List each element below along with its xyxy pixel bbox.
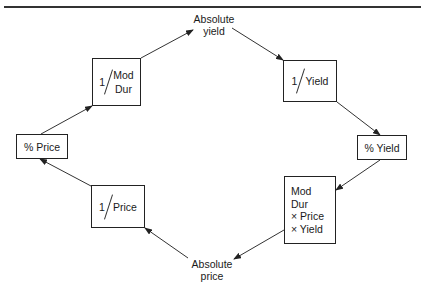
absolute-price-line1: Absolute xyxy=(186,258,238,270)
mod-dur-product-line4: × Yield xyxy=(291,223,324,236)
inverse-mod-dur-den-line1: Mod xyxy=(113,68,133,82)
arrow-product-to-absPrice xyxy=(234,230,284,259)
arrow-modDur-to-absYield xyxy=(141,30,193,58)
percent-yield-label: % Yield xyxy=(364,142,399,154)
node-inverse-yield: 1 Yield xyxy=(283,60,337,102)
absolute-yield-line2: yield xyxy=(188,25,240,37)
mod-dur-product-line3: × Price xyxy=(291,210,324,223)
inverse-yield-numerator: 1 xyxy=(292,75,298,87)
inverse-price-numerator: 1 xyxy=(99,201,105,213)
arrow-absPrice-to-price xyxy=(145,228,188,258)
mod-dur-product-line1: Mod xyxy=(291,185,324,198)
inverse-mod-dur-numerator: 1 xyxy=(99,76,105,88)
node-percent-price: % Price xyxy=(16,134,68,159)
node-mod-dur-product: Mod Dur × Price × Yield xyxy=(284,176,336,244)
arrow-pctPrice-to-modDur xyxy=(41,106,92,134)
arrow-pctYield-to-product xyxy=(336,160,380,190)
node-percent-yield: % Yield xyxy=(357,135,407,160)
percent-price-label: % Price xyxy=(24,141,60,153)
fraction-slash xyxy=(104,194,113,219)
absolute-price-line2: price xyxy=(186,270,238,282)
node-absolute-price: Absolute price xyxy=(186,258,238,282)
inverse-mod-dur-den-line2: Dur xyxy=(113,82,133,96)
node-inverse-price: 1 Price xyxy=(91,185,145,228)
arrow-yield-to-pctYield xyxy=(337,102,380,135)
mod-dur-product-line2: Dur xyxy=(291,198,324,211)
absolute-yield-line1: Absolute xyxy=(188,13,240,25)
arrow-price-to-pctPrice xyxy=(40,159,91,186)
fraction-slash xyxy=(296,68,305,93)
inverse-price-denominator: Price xyxy=(113,200,137,214)
node-absolute-yield: Absolute yield xyxy=(188,13,240,37)
fraction-slash xyxy=(104,69,113,94)
node-inverse-mod-dur: 1 Mod Dur xyxy=(92,58,141,106)
inverse-yield-denominator: Yield xyxy=(305,74,328,88)
